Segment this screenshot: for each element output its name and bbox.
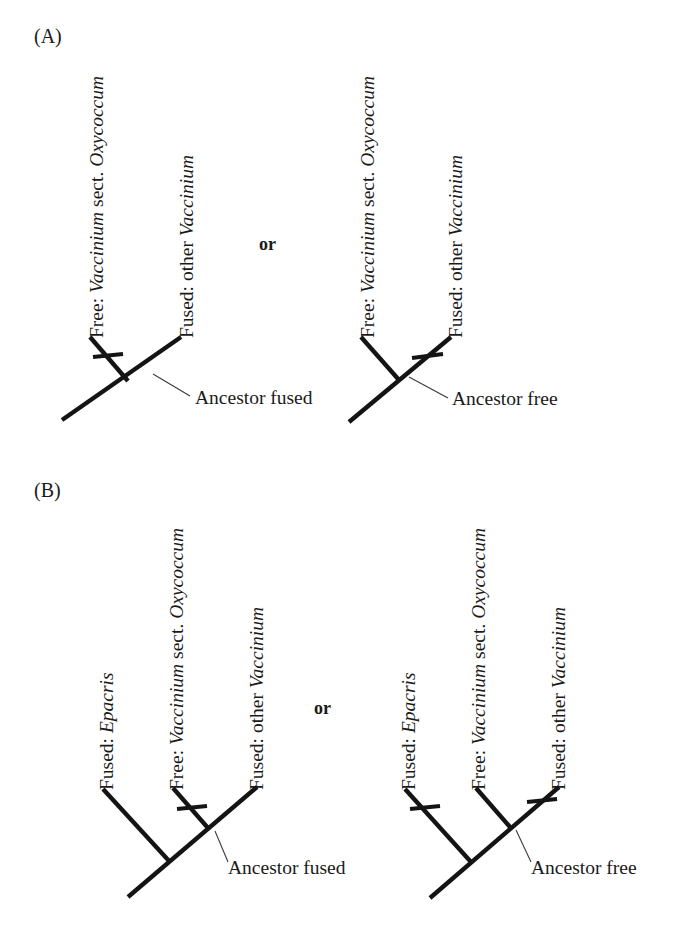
change-tick-free-oxycoccum: [177, 806, 207, 809]
ancestor-leader-line: [215, 831, 228, 862]
tip-sect-text: sect.: [468, 619, 489, 664]
panel-a-right-tree: Free: Vaccinium sect. Oxycoccum Fused: o…: [349, 76, 558, 422]
tip-state-text: Free:: [86, 293, 107, 338]
branch-to-free-oxycoccum: [90, 337, 128, 381]
tip-sect-text: sect.: [166, 619, 187, 664]
ancestor-state-label: Ancestor fused: [195, 387, 313, 408]
ancestor-leader-line: [153, 374, 190, 396]
tip-taxon-text: Vaccinium: [86, 212, 107, 293]
branch-root-to-other-vaccinium: [62, 337, 181, 420]
panel-b-letter: (B): [34, 479, 61, 502]
panel-a: (A) Free: Vaccinium sect. Oxycoccum Fuse…: [34, 25, 558, 422]
tip-sect-text: sect.: [357, 167, 378, 212]
tip-label-fused-other-vaccinium: Fused: other Vaccinium: [176, 155, 197, 338]
tip-state-text: Fused: other: [548, 688, 569, 790]
figure-canvas: (A) Free: Vaccinium sect. Oxycoccum Fuse…: [0, 0, 682, 925]
ancestor-leader-line: [516, 830, 531, 862]
tip-taxon-text: Vaccinium: [548, 607, 569, 688]
panel-b-right-tree: Fused: Epacris Free: Vaccinium sect. Oxy…: [398, 528, 637, 898]
tip-taxon-text: Epacris: [96, 672, 117, 734]
tip-label-free-oxycoccum: Free: Vaccinium sect. Oxycoccum: [166, 528, 187, 790]
panel-a-conjunction: or: [259, 234, 276, 254]
change-tick-free-oxycoccum: [93, 354, 123, 357]
panel-b: (B) Fused: Epacris Free: Vaccinium sect.…: [34, 479, 637, 898]
branch-root-to-other-vaccinium: [349, 337, 451, 422]
tip-label-fused-other-vaccinium: Fused: other Vaccinium: [548, 607, 569, 790]
tip-taxon2-text: Oxycoccum: [86, 76, 107, 167]
branch-root-to-other-vaccinium: [430, 787, 559, 898]
tip-state-text: Free:: [468, 745, 489, 790]
tip-label-free-oxycoccum: Free: Vaccinium sect. Oxycoccum: [468, 528, 489, 790]
tip-label-fused-other-vaccinium: Fused: other Vaccinium: [246, 607, 267, 790]
tip-taxon2-text: Oxycoccum: [468, 528, 489, 619]
tip-label-free-oxycoccum: Free: Vaccinium sect. Oxycoccum: [86, 76, 107, 338]
phylogeny-figure: (A) Free: Vaccinium sect. Oxycoccum Fuse…: [0, 0, 682, 925]
tip-state-text: Fused: other: [246, 688, 267, 790]
tip-taxon2-text: Oxycoccum: [166, 528, 187, 619]
branch-to-free-oxycoccum: [361, 337, 399, 380]
tip-state-text: Fused:: [398, 733, 419, 790]
panel-b-conjunction: or: [314, 698, 331, 718]
tip-taxon-text: Epacris: [398, 672, 419, 734]
tip-label-free-oxycoccum: Free: Vaccinium sect. Oxycoccum: [357, 76, 378, 338]
tip-taxon-text: Vaccinium: [166, 664, 187, 745]
tip-taxon2-text: Oxycoccum: [357, 76, 378, 167]
branch-to-fused-epacris: [405, 789, 471, 862]
tip-state-text: Fused:: [96, 733, 117, 790]
tip-state-text: Fused: other: [176, 236, 197, 338]
tip-label-fused-other-vaccinium: Fused: other Vaccinium: [445, 155, 466, 338]
change-tick-fused-epacris: [410, 806, 440, 809]
tip-state-text: Free:: [166, 745, 187, 790]
branch-root-to-other-vaccinium: [128, 787, 257, 897]
tip-sect-text: sect.: [86, 167, 107, 212]
ancestor-state-label: Ancestor free: [452, 388, 558, 409]
tip-label-fused-epacris: Fused: Epacris: [398, 672, 419, 790]
tip-taxon-text: Vaccinium: [246, 607, 267, 688]
ancestor-state-label: Ancestor free: [531, 857, 637, 878]
change-tick-fused-other-vaccinium: [527, 799, 557, 802]
tip-state-text: Fused: other: [445, 236, 466, 338]
tip-taxon-text: Vaccinium: [176, 155, 197, 236]
change-tick-fused-other-vaccinium: [412, 354, 443, 358]
panel-a-letter: (A): [34, 25, 62, 48]
branch-to-fused-epacris: [103, 789, 170, 862]
tip-state-text: Free:: [357, 293, 378, 338]
tip-label-fused-epacris: Fused: Epacris: [96, 672, 117, 790]
tip-taxon-text: Vaccinium: [468, 664, 489, 745]
tip-taxon-text: Vaccinium: [445, 155, 466, 236]
ancestor-state-label: Ancestor fused: [228, 857, 346, 878]
panel-b-left-tree: Fused: Epacris Free: Vaccinium sect. Oxy…: [96, 528, 346, 897]
ancestor-leader-line: [409, 377, 448, 398]
branch-to-free-oxycoccum: [476, 788, 510, 827]
tip-taxon-text: Vaccinium: [357, 212, 378, 293]
